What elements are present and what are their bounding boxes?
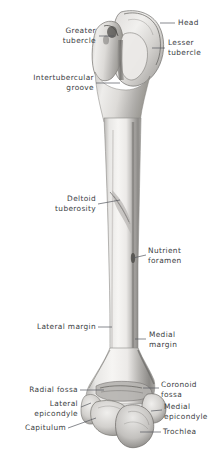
label-radial-fossa: Radial fossa: [2, 385, 78, 395]
label-nutrient-foramen: Nutrient foramen: [148, 246, 218, 266]
label-head: Head: [178, 18, 222, 28]
trochlea-region: [115, 405, 153, 448]
nutrient-foramen-region: [131, 253, 135, 263]
label-medial-epicondyle: Medial epicondyle: [164, 402, 222, 422]
anatomy-figure: Greater tubercle Head Lesser tubercle In…: [0, 0, 222, 459]
label-capitulum: Capitulum: [2, 423, 66, 433]
label-greater-tubercle: Greater tubercle: [4, 26, 96, 46]
label-lateral-margin: Lateral margin: [6, 322, 96, 332]
label-coronoid-fossa: Coronoid fossa: [161, 380, 221, 400]
label-lateral-epicondyle: Lateral epicondyle: [2, 399, 78, 419]
humerus-shaft: [104, 118, 141, 352]
label-intertubercular-groove: Intertubercular groove: [2, 73, 94, 93]
label-lesser-tubercle: Lesser tubercle: [168, 38, 222, 58]
label-medial-margin: Medial margin: [149, 330, 211, 350]
label-deltoid-tuberosity: Deltoid tuberosity: [6, 194, 96, 214]
label-trochlea: Trochlea: [163, 427, 221, 437]
